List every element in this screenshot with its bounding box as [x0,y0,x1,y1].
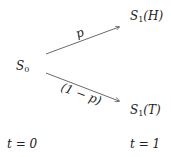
node-s1-tails: S1(T) [130,104,161,118]
node-s0: S0 [16,60,29,74]
time-label-1: t = 1 [130,138,160,150]
time-label-0: t = 0 [7,138,37,150]
node-s1-heads: S1(H) [130,10,163,24]
